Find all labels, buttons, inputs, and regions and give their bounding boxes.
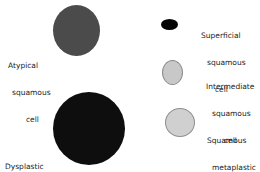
dysplastic-squamous-cell-label: Dysplastic squamous cell	[5, 144, 67, 172]
label-line: squamous	[8, 88, 51, 97]
label-line: Atypical	[8, 61, 51, 70]
label-line: metaplastic	[207, 163, 256, 172]
atypical-squamous-cell-shape	[53, 5, 100, 56]
label-line: cell	[8, 115, 51, 124]
label-line: Dysplastic	[5, 162, 67, 171]
label-line: squamous	[206, 109, 254, 118]
atypical-squamous-cell-label: Atypical squamous cell	[8, 43, 51, 133]
superficial-squamous-cell-shape	[161, 19, 178, 30]
label-line: Squamous	[207, 136, 256, 145]
squamous-metaplastic-cell-label: Squamous metaplastic cell	[207, 118, 256, 172]
intermediate-squamous-cell-shape	[162, 60, 183, 85]
label-line: Intermediate	[206, 82, 254, 91]
squamous-metaplastic-cell-shape	[165, 108, 195, 137]
label-line: Superficial	[201, 31, 246, 40]
